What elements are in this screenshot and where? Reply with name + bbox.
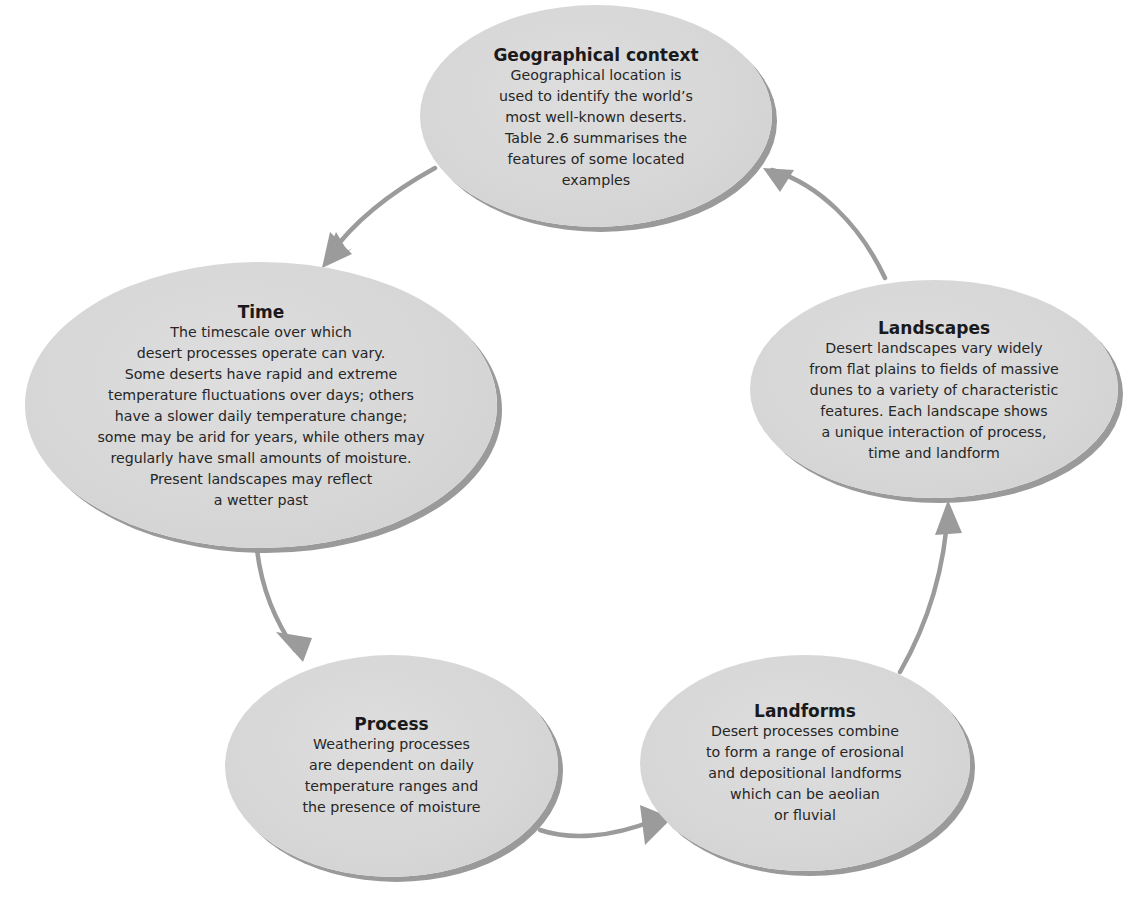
node-geographical-context: Geographical context Geographical locati… (420, 5, 772, 227)
text-line: features of some located (499, 149, 693, 170)
node-title: Time (238, 302, 285, 322)
text-line: desert processes operate can vary. (97, 343, 424, 364)
text-line: a unique interaction of process, (809, 422, 1059, 443)
arrowhead-icon (763, 168, 794, 192)
text-line: Desert landscapes vary widely (809, 338, 1059, 359)
arrow-geo-to-time (330, 168, 435, 255)
text-line: temperature fluctuations over days; othe… (97, 385, 424, 406)
text-line: Geographical location is (499, 65, 693, 86)
text-line: have a slower daily temperature change; (97, 406, 424, 427)
text-line: a wetter past (97, 490, 424, 511)
text-line: examples (499, 170, 693, 191)
arrow-landscapes-to-geo (772, 170, 885, 278)
text-line: and depositional landforms (706, 763, 904, 784)
arrowhead-icon (276, 632, 312, 662)
node-time: Time The timescale over which desert pro… (25, 262, 497, 548)
text-line: the presence of moisture (302, 797, 480, 818)
text-line: features. Each landscape shows (809, 401, 1059, 422)
text-line: are dependent on daily (302, 755, 480, 776)
text-line: which can be aeolian (706, 784, 904, 805)
node-title: Process (354, 714, 428, 734)
text-line: temperature ranges and (302, 776, 480, 797)
text-line: time and landform (809, 443, 1059, 464)
text-line: Desert processes combine (706, 721, 904, 742)
text-line: Some deserts have rapid and extreme (97, 364, 424, 385)
node-landforms: Landforms Desert processes combine to fo… (640, 655, 970, 871)
node-title: Landscapes (878, 318, 990, 338)
text-line: Weathering processes (302, 734, 480, 755)
node-title: Landforms (754, 701, 856, 721)
node-description: Desert landscapes vary widely from flat … (809, 338, 1059, 464)
arrowhead-icon (935, 500, 962, 535)
text-line: to form a range of erosional (706, 742, 904, 763)
text-line: regularly have small amounts of moisture… (97, 448, 424, 469)
node-description: The timescale over which desert processe… (97, 322, 424, 511)
text-line: dunes to a variety of characteristic (809, 380, 1059, 401)
text-line: from flat plains to fields of massive (809, 359, 1059, 380)
node-title: Geographical context (493, 45, 698, 65)
node-description: Weathering processes are dependent on da… (302, 734, 480, 818)
text-line: Table 2.6 summarises the (499, 128, 693, 149)
text-line: The timescale over which (97, 322, 424, 343)
node-landscapes: Landscapes Desert landscapes vary widely… (750, 280, 1118, 498)
node-description: Geographical location is used to identif… (499, 65, 693, 191)
text-line: Present landscapes may reflect (97, 469, 424, 490)
text-line: most well-known deserts. (499, 107, 693, 128)
node-process: Process Weathering processes are depende… (225, 655, 558, 877)
text-line: used to identify the world’s (499, 86, 693, 107)
text-line: or fluvial (706, 805, 904, 826)
node-description: Desert processes combine to form a range… (706, 721, 904, 826)
text-line: some may be arid for years, while others… (97, 427, 424, 448)
arrow-process-to-landforms (540, 820, 655, 836)
